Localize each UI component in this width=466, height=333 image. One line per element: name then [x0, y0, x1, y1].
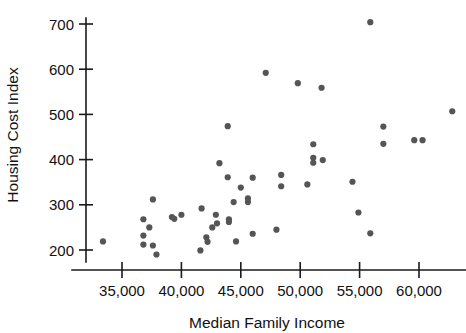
data-point: [146, 224, 152, 230]
data-point: [310, 160, 316, 166]
data-point: [140, 216, 146, 222]
data-point: [273, 227, 279, 233]
data-point: [226, 219, 232, 225]
data-point: [209, 224, 215, 230]
data-point: [197, 247, 203, 253]
y-axis-group: 200300400500600700: [49, 16, 93, 263]
data-point: [318, 85, 324, 91]
x-axis-title: Median Family Income: [189, 314, 345, 331]
data-point: [178, 212, 184, 218]
data-point: [367, 19, 373, 25]
data-point: [310, 141, 316, 147]
data-point: [355, 209, 361, 215]
x-tick-group: 35,00040,00045,00050,00055,00060,000: [99, 262, 442, 299]
data-points-layer: [100, 19, 455, 258]
x-tick-label: 50,000: [277, 282, 323, 299]
y-tick-label: 700: [49, 16, 74, 33]
data-point: [320, 157, 326, 163]
data-point: [245, 199, 251, 205]
x-tick-label: 45,000: [218, 282, 264, 299]
y-tick-label: 300: [49, 196, 74, 213]
data-point: [225, 174, 231, 180]
data-point: [349, 179, 355, 185]
data-point: [213, 212, 219, 218]
data-point: [140, 241, 146, 247]
data-point: [140, 232, 146, 238]
data-point: [411, 137, 417, 143]
y-axis-title: Housing Cost Index: [4, 67, 21, 203]
data-point: [225, 123, 231, 129]
x-tick-label: 35,000: [99, 282, 145, 299]
x-tick-label: 60,000: [396, 282, 442, 299]
x-tick-label: 55,000: [337, 282, 383, 299]
x-axis-group: 35,00040,00045,00050,00055,00060,000: [72, 262, 466, 299]
data-point: [233, 238, 239, 244]
data-point: [216, 160, 222, 166]
data-point: [250, 231, 256, 237]
y-tick-label: 400: [49, 151, 74, 168]
data-point: [449, 108, 455, 114]
data-point: [238, 185, 244, 191]
data-point: [199, 205, 205, 211]
y-tick-label: 500: [49, 106, 74, 123]
data-point: [231, 199, 237, 205]
data-point: [250, 175, 256, 181]
data-point: [380, 124, 386, 130]
data-point: [204, 239, 210, 245]
data-point: [153, 251, 159, 257]
data-point: [380, 141, 386, 147]
data-point: [214, 220, 220, 226]
data-point: [263, 70, 269, 76]
data-point: [419, 137, 425, 143]
plot-canvas: 200300400500600700 35,00040,00045,00050,…: [0, 0, 466, 333]
x-tick-label: 40,000: [158, 282, 204, 299]
data-point: [171, 216, 177, 222]
data-point: [278, 183, 284, 189]
scatter-plot-figure: 200300400500600700 35,00040,00045,00050,…: [0, 0, 466, 333]
data-point: [304, 181, 310, 187]
y-tick-label: 600: [49, 61, 74, 78]
data-point: [150, 196, 156, 202]
data-point: [295, 80, 301, 86]
data-point: [100, 238, 106, 244]
data-point: [367, 230, 373, 236]
y-tick-label: 200: [49, 242, 74, 259]
data-point: [150, 242, 156, 248]
data-point: [278, 172, 284, 178]
